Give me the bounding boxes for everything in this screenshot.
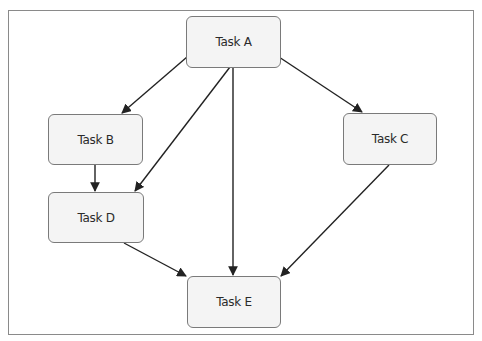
node-task-b: Task B (48, 114, 143, 165)
edge-a-b (122, 57, 187, 113)
edge-a-d (135, 67, 230, 191)
node-label: Task B (77, 133, 113, 147)
node-label: Task A (215, 35, 251, 49)
node-task-e: Task E (187, 276, 281, 328)
node-label: Task E (216, 295, 252, 309)
node-label: Task D (77, 211, 114, 225)
edge-a-c (279, 57, 362, 112)
node-task-a: Task A (186, 16, 281, 68)
node-task-c: Task C (343, 113, 437, 165)
edge-d-e (124, 243, 186, 276)
node-task-d: Task D (48, 192, 144, 243)
edge-c-e (281, 165, 389, 276)
node-label: Task C (372, 132, 408, 146)
